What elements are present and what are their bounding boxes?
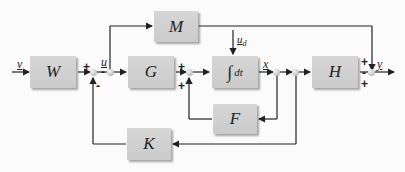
block-H-label: H xyxy=(329,62,341,82)
sign-sum1-right: - xyxy=(101,66,105,78)
block-G-label: G xyxy=(145,62,157,82)
integral-dt: dt xyxy=(234,66,243,78)
block-F-label: F xyxy=(230,109,240,129)
signal-y: y xyxy=(377,57,382,72)
block-H: H xyxy=(312,56,358,88)
sign-sum1-bottom: - xyxy=(96,80,100,92)
block-F: F xyxy=(213,104,257,134)
block-W: W xyxy=(30,56,76,88)
block-M-label: M xyxy=(169,17,183,37)
block-M: M xyxy=(154,11,198,42)
block-G: G xyxy=(128,56,174,88)
summing-junction-2 xyxy=(186,69,193,76)
integral-symbol: ∫ xyxy=(227,62,232,83)
sign-sum2-top: + xyxy=(178,61,185,73)
block-K-label: K xyxy=(143,134,154,154)
signal-x: x xyxy=(263,57,268,72)
summing-junction-4 xyxy=(292,69,299,76)
block-K: K xyxy=(127,128,171,160)
block-W-label: W xyxy=(46,62,60,82)
signal-v: v xyxy=(17,57,22,72)
block-integrator: ∫ dt xyxy=(212,56,258,88)
sign-sum1-top: + xyxy=(83,61,90,73)
summing-junction-1b xyxy=(107,69,114,76)
summing-junction-output xyxy=(368,69,375,76)
sign-sum2-bottom: + xyxy=(178,80,185,92)
sign-output-bottom: + xyxy=(361,78,368,90)
signal-ud-sub: d xyxy=(243,39,247,48)
summing-junction-1 xyxy=(90,69,97,76)
summing-junction-3 xyxy=(273,69,280,76)
signal-ud: ud xyxy=(237,33,247,48)
